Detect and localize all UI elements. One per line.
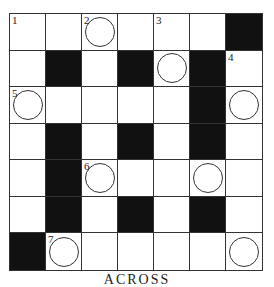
circle-marker-icon: [229, 90, 259, 120]
black-cell: [46, 160, 82, 197]
grid-cell[interactable]: [118, 160, 154, 197]
circle-marker-icon: [157, 53, 187, 83]
grid-cell[interactable]: [10, 124, 46, 161]
grid-cell[interactable]: [10, 51, 46, 88]
black-cell: [46, 51, 82, 88]
clue-number: 7: [48, 233, 54, 245]
grid-cell[interactable]: 3: [154, 14, 190, 51]
grid-cell[interactable]: [226, 124, 262, 161]
grid-cell[interactable]: [154, 197, 190, 234]
grid-cell[interactable]: [118, 14, 154, 51]
clue-number: 1: [12, 14, 18, 26]
grid-cell[interactable]: [190, 233, 226, 270]
grid-cell[interactable]: [82, 233, 118, 270]
grid-cell[interactable]: [82, 197, 118, 234]
black-cell: [118, 124, 154, 161]
grid-cell[interactable]: [10, 197, 46, 234]
grid-cell[interactable]: [154, 124, 190, 161]
black-cell: [190, 197, 226, 234]
clue-number: 4: [228, 51, 234, 63]
grid-cell[interactable]: 4: [226, 51, 262, 88]
grid-cell[interactable]: [154, 51, 190, 88]
grid-cell[interactable]: [10, 160, 46, 197]
grid-cell[interactable]: [190, 14, 226, 51]
grid-cell[interactable]: [154, 233, 190, 270]
circle-marker-icon: [229, 237, 259, 267]
grid-cell[interactable]: [46, 87, 82, 124]
grid-cell[interactable]: [118, 233, 154, 270]
grid-cell[interactable]: 2: [82, 14, 118, 51]
grid-cell[interactable]: [226, 233, 262, 270]
clue-number: 6: [84, 160, 90, 172]
grid-cell[interactable]: [226, 87, 262, 124]
grid-cell[interactable]: [154, 87, 190, 124]
black-cell: [118, 197, 154, 234]
across-heading: ACROSS: [0, 273, 274, 287]
black-cell: [46, 124, 82, 161]
grid-cell[interactable]: [82, 51, 118, 88]
crossword-grid: 1234567: [9, 13, 263, 271]
black-cell: [190, 51, 226, 88]
grid-cell[interactable]: 7: [46, 233, 82, 270]
black-cell: [46, 197, 82, 234]
grid-cell[interactable]: 1: [10, 14, 46, 51]
clue-number: 2: [84, 14, 90, 26]
grid-cell[interactable]: [190, 160, 226, 197]
grid-cell[interactable]: [154, 160, 190, 197]
black-cell: [226, 14, 262, 51]
black-cell: [10, 233, 46, 270]
black-cell: [190, 124, 226, 161]
circle-marker-icon: [193, 163, 223, 193]
grid-cell[interactable]: [226, 197, 262, 234]
black-cell: [118, 51, 154, 88]
grid-cell[interactable]: [82, 124, 118, 161]
grid-cell[interactable]: [46, 14, 82, 51]
grid-cell[interactable]: [82, 87, 118, 124]
clue-number: 5: [12, 87, 18, 99]
black-cell: [190, 87, 226, 124]
grid-cell[interactable]: 5: [10, 87, 46, 124]
grid-cell[interactable]: [226, 160, 262, 197]
clue-number: 3: [156, 14, 162, 26]
grid-cell[interactable]: [118, 87, 154, 124]
grid-cell[interactable]: 6: [82, 160, 118, 197]
